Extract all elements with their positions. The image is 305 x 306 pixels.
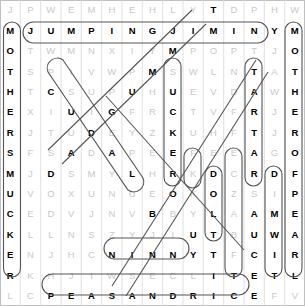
grid-cell[interactable]: C [244, 245, 264, 265]
grid-cell[interactable]: P [20, 0, 40, 20]
grid-cell[interactable]: K [183, 163, 203, 183]
grid-cell[interactable]: H [142, 0, 162, 20]
grid-cell[interactable]: C [20, 286, 40, 306]
grid-cell[interactable]: O [285, 41, 305, 61]
grid-cell[interactable]: N [61, 224, 81, 244]
grid-cell[interactable]: G [142, 20, 162, 40]
grid-cell[interactable]: J [0, 0, 20, 20]
grid-cell[interactable]: M [81, 0, 101, 20]
grid-cell[interactable]: T [41, 122, 61, 142]
grid-cell[interactable]: U [163, 82, 183, 102]
grid-cell[interactable]: P [183, 41, 203, 61]
grid-cell[interactable]: T [203, 224, 223, 244]
grid-cell[interactable]: R [285, 245, 305, 265]
grid-cell[interactable]: H [102, 0, 122, 20]
grid-cell[interactable]: P [81, 20, 101, 40]
grid-cell[interactable]: S [61, 163, 81, 183]
grid-cell[interactable]: I [163, 224, 183, 244]
grid-cell[interactable]: P [102, 82, 122, 102]
grid-cell[interactable]: T [20, 41, 40, 61]
grid-cell[interactable]: J [20, 20, 40, 40]
grid-cell[interactable]: I [122, 245, 142, 265]
grid-cell[interactable]: E [163, 143, 183, 163]
grid-cell[interactable]: N [81, 41, 101, 61]
grid-cell[interactable]: S [102, 286, 122, 306]
grid-cell[interactable]: C [81, 245, 101, 265]
grid-cell[interactable]: N [142, 245, 162, 265]
grid-cell[interactable]: V [81, 61, 101, 81]
grid-cell[interactable]: S [122, 265, 142, 285]
grid-cell[interactable]: T [224, 265, 244, 285]
grid-cell[interactable]: D [224, 82, 244, 102]
grid-cell[interactable]: I [224, 20, 244, 40]
grid-cell[interactable]: T [203, 245, 223, 265]
grid-cell[interactable]: D [81, 122, 101, 142]
grid-cell[interactable]: O [203, 41, 223, 61]
grid-cell[interactable]: Y [183, 245, 203, 265]
grid-cell[interactable]: V [203, 82, 223, 102]
grid-cell[interactable]: C [224, 286, 244, 306]
grid-cell[interactable]: K [163, 122, 183, 142]
grid-cell[interactable]: V [203, 102, 223, 122]
grid-cell[interactable]: B [224, 224, 244, 244]
grid-cell[interactable]: E [61, 286, 81, 306]
grid-cell[interactable]: J [81, 204, 101, 224]
grid-cell[interactable]: L [203, 61, 223, 81]
grid-cell[interactable]: M [81, 163, 101, 183]
grid-cell[interactable]: J [163, 20, 183, 40]
grid-cell[interactable]: Z [142, 122, 162, 142]
grid-cell[interactable]: L [183, 265, 203, 285]
grid-cell[interactable]: C [163, 102, 183, 122]
grid-cell[interactable]: U [61, 102, 81, 122]
grid-cell[interactable]: N [244, 20, 264, 40]
grid-cell[interactable]: E [285, 102, 305, 122]
grid-cell[interactable]: E [61, 0, 81, 20]
grid-cell[interactable]: N [102, 245, 122, 265]
grid-cell[interactable]: D [264, 163, 284, 183]
grid-cell[interactable]: S [81, 224, 101, 244]
grid-cell[interactable]: T [244, 122, 264, 142]
grid-cell[interactable]: W [41, 41, 61, 61]
grid-cell[interactable]: C [0, 204, 20, 224]
grid-cell[interactable]: U [0, 184, 20, 204]
grid-cell[interactable]: T [264, 265, 284, 285]
grid-cell[interactable]: O [163, 184, 183, 204]
grid-cell[interactable]: H [61, 245, 81, 265]
grid-cell[interactable]: A [244, 204, 264, 224]
grid-cell[interactable]: M [285, 20, 305, 40]
grid-cell[interactable]: V [285, 286, 305, 306]
grid-cell[interactable]: J [264, 41, 284, 61]
grid-cell[interactable]: F [122, 102, 142, 122]
grid-cell[interactable]: F [183, 143, 203, 163]
grid-cell[interactable]: I [264, 245, 284, 265]
grid-cell[interactable]: E [224, 143, 244, 163]
grid-cell[interactable]: M [61, 20, 81, 40]
grid-cell[interactable]: N [142, 286, 162, 306]
grid-cell[interactable]: Y [183, 204, 203, 224]
grid-cell[interactable]: N [20, 245, 40, 265]
grid-cell[interactable]: J [61, 265, 81, 285]
grid-cell[interactable]: R [183, 286, 203, 306]
grid-cell[interactable]: V [122, 204, 142, 224]
grid-cell[interactable]: E [244, 265, 264, 285]
grid-cell[interactable]: S [61, 82, 81, 102]
grid-cell[interactable]: N [102, 204, 122, 224]
grid-cell[interactable]: F [224, 102, 244, 122]
grid-cell[interactable]: J [264, 122, 284, 142]
grid-cell[interactable]: A [122, 286, 142, 306]
grid-cell[interactable]: H [0, 82, 20, 102]
grid-cell[interactable]: J [20, 122, 40, 142]
grid-cell[interactable]: S [0, 143, 20, 163]
grid-cell[interactable]: E [142, 143, 162, 163]
grid-cell[interactable]: R [0, 122, 20, 142]
grid-cell[interactable]: W [102, 61, 122, 81]
grid-cell[interactable]: M [142, 61, 162, 81]
grid-cell[interactable]: U [183, 122, 203, 142]
grid-cell[interactable]: O [41, 184, 61, 204]
grid-cell[interactable]: X [102, 41, 122, 61]
grid-cell[interactable]: D [203, 163, 223, 183]
grid-cell[interactable]: K [0, 224, 20, 244]
grid-cell[interactable]: W [264, 224, 284, 244]
grid-cell[interactable]: S [41, 143, 61, 163]
grid-cell[interactable]: E [20, 204, 40, 224]
